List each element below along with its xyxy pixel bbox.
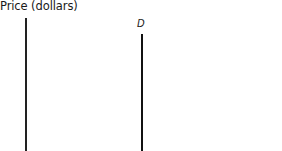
demand-curve-label: D [137,18,145,29]
y-axis-label: Price (dollars) [0,0,78,13]
y-axis-line [25,18,27,151]
demand-curve [141,34,144,151]
